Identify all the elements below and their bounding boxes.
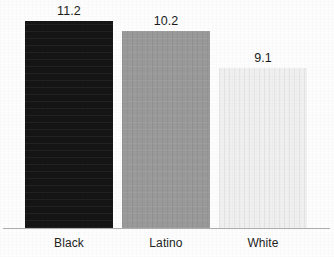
bar-value-label-black: 11.2 <box>25 4 113 18</box>
x-tick-label-black: Black <box>25 236 113 250</box>
bar-black <box>25 21 113 228</box>
bar-value-label-white: 9.1 <box>219 51 307 65</box>
bar-latino <box>122 31 210 228</box>
bar-white <box>219 68 307 228</box>
bar-value-label-latino: 10.2 <box>122 14 210 28</box>
x-tick-label-latino: Latino <box>122 236 210 250</box>
x-axis-line <box>3 228 330 229</box>
bar-chart: 11.2 10.2 9.1 Black Latino White <box>0 0 334 257</box>
plot-area: 11.2 10.2 9.1 Black Latino White <box>0 0 334 257</box>
x-tick-label-white: White <box>219 236 307 250</box>
